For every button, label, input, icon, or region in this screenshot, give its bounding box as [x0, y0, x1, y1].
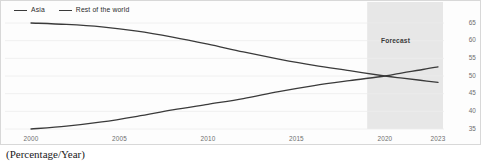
x-axis-tick-2000: 2000: [24, 136, 39, 142]
x-axis-tick-2015: 2015: [289, 136, 304, 142]
forecast-annotation-label: Forecast: [381, 37, 410, 44]
chart-plot-area: Asia Rest of the world Forecast 65605550…: [0, 0, 481, 145]
x-axis-tick-2005: 2005: [112, 136, 127, 142]
y-axis-tick-65: 65: [460, 20, 476, 26]
chart-legend: Asia Rest of the world: [14, 7, 129, 14]
legend-item-rest-of-the-world[interactable]: Rest of the world: [59, 7, 130, 14]
chart-caption: (Percentage/Year): [6, 149, 85, 160]
x-axis-tick-2023: 2023: [431, 136, 446, 142]
y-axis-tick-60: 60: [460, 37, 476, 43]
y-axis-tick-45: 45: [460, 90, 476, 96]
legend-label-asia: Asia: [31, 7, 45, 14]
line-dash-icon: [14, 10, 27, 11]
chart-figure: Asia Rest of the world Forecast 65605550…: [0, 0, 483, 168]
legend-label-rest-of-the-world: Rest of the world: [76, 7, 130, 14]
y-axis-tick-50: 50: [460, 73, 476, 79]
line-chart-svg: [1, 1, 481, 144]
y-axis-tick-35: 35: [460, 126, 476, 132]
line-dash-icon: [59, 10, 72, 11]
legend-item-asia[interactable]: Asia: [14, 7, 45, 14]
x-axis-tick-2020: 2020: [377, 136, 392, 142]
x-axis-tick-2010: 2010: [201, 136, 216, 142]
forecast-shaded-band: [367, 2, 443, 129]
y-axis-tick-55: 55: [460, 55, 476, 61]
y-axis-tick-40: 40: [460, 108, 476, 114]
